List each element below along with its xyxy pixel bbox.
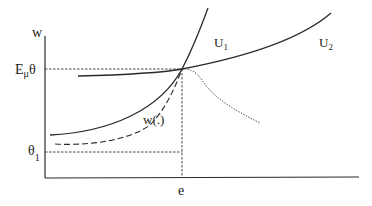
w-function-label: w(.)	[143, 112, 164, 127]
x-axis-label: e	[178, 183, 184, 198]
u2-curve	[78, 13, 331, 76]
e-mu-theta-label: Eμθ	[15, 62, 36, 79]
e-mu-theta-main: E	[15, 62, 24, 77]
theta-1-sub: 1	[35, 152, 40, 163]
u1-curve	[50, 8, 208, 135]
e-mu-theta-tail: θ	[29, 62, 36, 77]
x-axis	[45, 177, 359, 178]
u1-label: U1	[214, 35, 228, 52]
axes	[45, 36, 359, 178]
u1-sub: 1	[223, 42, 228, 52]
dotted-curve	[182, 69, 260, 123]
u2-label: U2	[319, 35, 333, 52]
theta-1-label: θ1	[28, 143, 40, 163]
y-axis-label: w	[32, 25, 43, 40]
diagram-canvas: w Eμθ θ1 U1 U2 w(.) e	[0, 0, 372, 206]
u2-sub: 2	[328, 42, 333, 52]
